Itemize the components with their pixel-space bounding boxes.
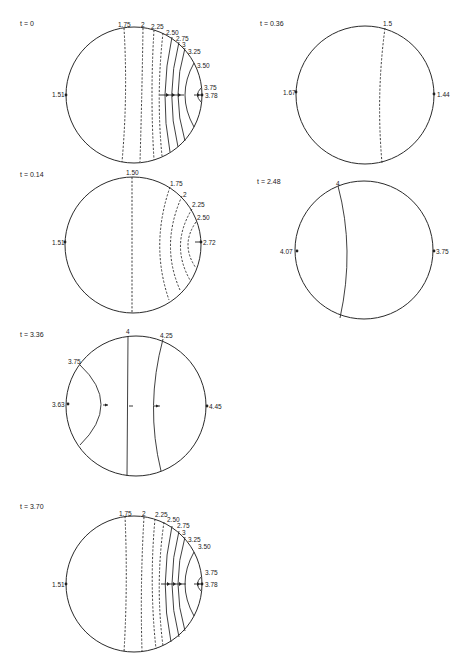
contour-label: 2 xyxy=(141,21,145,28)
left-boundary-value: 1.51 xyxy=(52,581,65,588)
contour-2 xyxy=(140,28,143,162)
boundary-point-left xyxy=(67,403,70,406)
boundary-point-right xyxy=(206,405,209,408)
domain-circle xyxy=(296,26,434,164)
contour-label: 2.25 xyxy=(192,201,205,208)
contour-figure: t = 0 1.75 2 2.25 2.50 2.75 3 3.25 3.50 … xyxy=(0,0,468,664)
contour-3-50 xyxy=(185,552,194,616)
right-boundary-value: 2.72 xyxy=(203,239,216,246)
contour-label: 3.75 xyxy=(205,569,218,576)
panel-t248: t = 2.48 4 4.07 3.75 xyxy=(257,178,449,319)
contour-label: 3.75 xyxy=(204,84,217,91)
contour-1-75 xyxy=(124,516,126,652)
domain-circle xyxy=(295,181,433,319)
contour-4 xyxy=(127,336,128,476)
contour-1-5 xyxy=(380,28,385,163)
contour-label: 4 xyxy=(336,180,340,187)
flow-arrows xyxy=(103,404,160,408)
contour-2-25 xyxy=(180,209,192,280)
contour-2-25 xyxy=(152,30,154,160)
contour-label: 1.75 xyxy=(118,21,131,28)
contour-label: 2.50 xyxy=(197,214,210,221)
boundary-point-right xyxy=(433,250,436,253)
panel-t036: t = 0.36 1.5 1.67 1.44 xyxy=(260,20,450,164)
contour-2 xyxy=(141,517,144,651)
contour-label: 1.50 xyxy=(126,169,139,176)
right-boundary-value: 3.75 xyxy=(436,248,449,255)
contour-4 xyxy=(338,186,347,318)
contour-1-75 xyxy=(160,187,170,300)
contour-label: 4.25 xyxy=(160,332,173,339)
flow-arrows xyxy=(161,582,201,586)
boundary-point-right xyxy=(201,94,204,97)
domain-circle xyxy=(66,336,206,476)
boundary-point-left xyxy=(65,583,68,586)
contour-3-50 xyxy=(185,63,194,127)
contour-label: 3.50 xyxy=(198,543,211,550)
boundary-point-right xyxy=(433,93,436,96)
panel-t0: t = 0 1.75 2 2.25 2.50 2.75 3 3.25 3.50 … xyxy=(20,20,218,163)
right-boundary-value: 1.44 xyxy=(437,91,450,98)
contour-2-25 xyxy=(152,519,156,649)
panel-time-label: t = 0.14 xyxy=(20,171,44,178)
contour-label: 1.5 xyxy=(383,20,392,27)
panel-time-label: t = 2.48 xyxy=(257,178,281,185)
contour-label: 2.75 xyxy=(177,522,190,529)
left-boundary-value: 4.07 xyxy=(280,248,293,255)
boundary-point-left xyxy=(65,94,68,97)
contour-label: 3.75 xyxy=(68,358,81,365)
contour-label: 3.25 xyxy=(188,48,201,55)
left-boundary-value: 1.51 xyxy=(52,91,65,98)
contour-label: 1.75 xyxy=(119,510,132,517)
boundary-point-left xyxy=(296,250,299,253)
contour-label: 2 xyxy=(142,510,146,517)
contour-label: 2.25 xyxy=(151,23,164,30)
left-boundary-value: 1.51 xyxy=(52,239,65,246)
contour-3-75 xyxy=(80,365,101,445)
panel-t336: t = 3.36 3.75 4 4.25 3.63 4.45 xyxy=(20,328,222,476)
contour-label: 3.25 xyxy=(188,536,201,543)
contour-2-50 xyxy=(188,222,196,268)
flow-arrows xyxy=(160,93,201,97)
right-boundary-value: 4.45 xyxy=(209,403,222,410)
panel-t370: t = 3.70 1.75 2 2.25 2.50 2.75 3 3.25 3.… xyxy=(20,503,218,652)
right-boundary-value: 3.78 xyxy=(205,92,218,99)
panel-time-label: t = 0 xyxy=(20,20,34,27)
left-boundary-value: 3.63 xyxy=(52,401,65,408)
boundary-point-right xyxy=(201,583,204,586)
right-boundary-value: 3.78 xyxy=(205,581,218,588)
panel-time-label: t = 0.36 xyxy=(260,20,284,27)
contour-4-25 xyxy=(153,339,163,471)
panel-time-label: t = 3.70 xyxy=(20,503,44,510)
contour-label: 2 xyxy=(183,191,187,198)
contour-label: 1.75 xyxy=(170,180,183,187)
contour-label: 3.50 xyxy=(197,62,210,69)
contour-label: 4 xyxy=(126,328,130,335)
contour-label: 3 xyxy=(182,41,186,48)
left-boundary-value: 1.67 xyxy=(283,89,296,96)
panel-t014: t = 0.14 1.50 1.75 2 2.25 2.50 1.51 2.72 xyxy=(20,169,216,313)
contour-label: 3 xyxy=(182,529,186,536)
contour-1-75 xyxy=(122,28,126,162)
contour-2-50 xyxy=(159,33,163,156)
panel-time-label: t = 3.36 xyxy=(20,331,44,338)
